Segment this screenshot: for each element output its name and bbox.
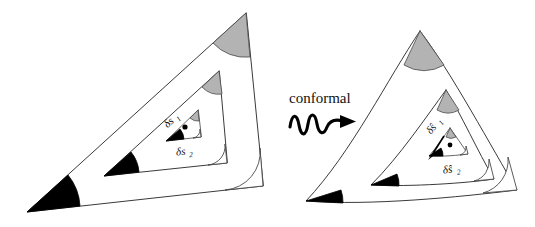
outer-lower-right-angle-arc <box>225 148 263 190</box>
label-delta-shat1-subscript: 1 <box>436 118 445 126</box>
label-delta-shat2: δŝ <box>442 162 454 175</box>
curved-center-point-dot <box>448 143 453 148</box>
outer-curved-apex-angle-wedge <box>404 31 444 71</box>
inner-lower-right-angle-arc <box>193 129 201 138</box>
label-delta-s2: δs <box>175 145 185 158</box>
center-point-dot <box>182 124 187 129</box>
label-delta-s2-group: δs 2 <box>175 144 193 160</box>
inner-apex-angle-wedge <box>190 110 199 121</box>
label-delta-shat2-subscript: 2 <box>456 167 461 176</box>
middle-curved-lower-right-angle-arc <box>474 159 494 181</box>
outer-curved-lower-left-angle-wedge <box>306 190 343 203</box>
label-delta-shat1-group: δŝ 1 <box>423 115 446 138</box>
middle-curved-apex-angle-wedge <box>437 90 459 113</box>
label-delta-s2-subscript: 2 <box>189 150 194 159</box>
image-triangle-panel: δŝ 1 δŝ 2 <box>306 31 517 203</box>
squiggly-arrow-icon <box>290 115 356 134</box>
outer-apex-angle-wedge <box>213 13 250 57</box>
middle-apex-angle-wedge <box>202 71 222 94</box>
domain-triangle-panel: δs 1 δs 2 <box>27 13 263 212</box>
inner-curved-apex-angle-wedge <box>446 128 456 138</box>
conformal-caption-group: conformal <box>289 90 356 134</box>
inner-lower-left-angle-wedge <box>166 129 184 141</box>
label-delta-s1-subscript: 1 <box>174 114 183 123</box>
middle-lower-left-angle-wedge <box>104 152 139 176</box>
middle-lower-right-angle-arc <box>208 144 227 165</box>
middle-curved-triangle-outline <box>371 90 494 186</box>
label-delta-shat1: δŝ <box>423 121 439 136</box>
conformal-label: conformal <box>289 90 351 106</box>
diagram-canvas: δs 1 δs 2 conformal <box>0 0 535 227</box>
conformal-mapping-figure: δs 1 δs 2 conformal <box>0 0 535 227</box>
outer-lower-left-angle-wedge <box>27 175 80 212</box>
label-delta-shat2-group: δŝ 2 <box>442 161 462 178</box>
label-delta-s1-group: δs 1 <box>161 110 183 132</box>
